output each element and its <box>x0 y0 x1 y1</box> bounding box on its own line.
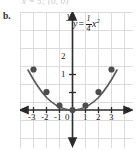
figure-panel: x = 5; (0, 0) b. <box>0 0 137 151</box>
y-tick-label: 2 <box>61 51 66 61</box>
data-point <box>30 66 36 72</box>
data-point <box>82 102 88 108</box>
data-point <box>43 89 49 95</box>
x-tick-label: -3 <box>28 112 36 122</box>
fraction-denominator: 4 <box>86 25 92 33</box>
fraction-numerator: 1 <box>86 15 92 23</box>
data-point <box>108 66 114 72</box>
x-axis-label: x <box>125 104 129 114</box>
equation-label: y=14x2 <box>73 15 100 33</box>
y-axis-label: y <box>67 11 71 21</box>
equation-lhs: y <box>73 18 77 29</box>
origin-label: 0 <box>65 112 70 122</box>
x-tick-label: 3 <box>109 112 114 122</box>
equation-equals: = <box>78 18 84 29</box>
equation-exponent: 2 <box>97 17 100 24</box>
equation-fraction: 14 <box>86 15 92 33</box>
x-axis-arrow-left <box>20 107 28 114</box>
x-tick-label: -2 <box>41 112 49 122</box>
y-tick-label: 1 <box>61 69 66 79</box>
x-tick-label: -1 <box>54 112 62 122</box>
data-point <box>69 107 75 113</box>
data-point <box>95 89 101 95</box>
part-label: b. <box>3 11 11 21</box>
cropped-text-remnant: x = 5; (0, 0) <box>22 0 102 5</box>
x-tick-label: 2 <box>96 112 101 122</box>
x-tick-label: 1 <box>83 112 88 122</box>
parabola-graph: y=14x2 y x -3 -2 -1 1 2 3 0 1 2 <box>20 12 133 148</box>
y-axis-arrow-down <box>69 138 76 146</box>
data-point <box>56 102 62 108</box>
